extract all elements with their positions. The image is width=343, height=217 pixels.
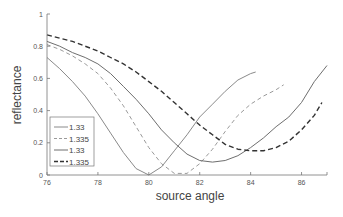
x-tick-label: 82 [196,179,204,186]
legend-label: 1.33 [69,123,85,132]
y-tick-label: 0 [39,172,43,179]
x-tick-label: 76 [43,179,51,186]
y-tick-label: 0.6 [33,75,43,82]
legend-label: 1.33 [69,146,85,155]
y-tick-label: 0.8 [33,43,43,50]
x-ticks: 767880828486 [43,172,327,186]
y-axis-title: reflectance [10,65,24,124]
y-tick-label: 1 [39,11,43,18]
x-tick-label: 86 [298,179,306,186]
y-tick-label: 0.2 [33,139,43,146]
legend: 1.331.3351.331.335 [50,117,94,167]
reflectance-chart: 00.20.40.60.81 767880828486 source angle… [0,0,343,217]
legend-label: 1.335 [69,158,90,167]
legend-label: 1.335 [69,135,90,144]
x-tick-label: 80 [145,179,153,186]
x-tick-label: 84 [247,179,255,186]
y-tick-label: 0.4 [33,107,43,114]
x-axis-title: source angle [156,189,225,203]
x-tick-label: 78 [94,179,102,186]
